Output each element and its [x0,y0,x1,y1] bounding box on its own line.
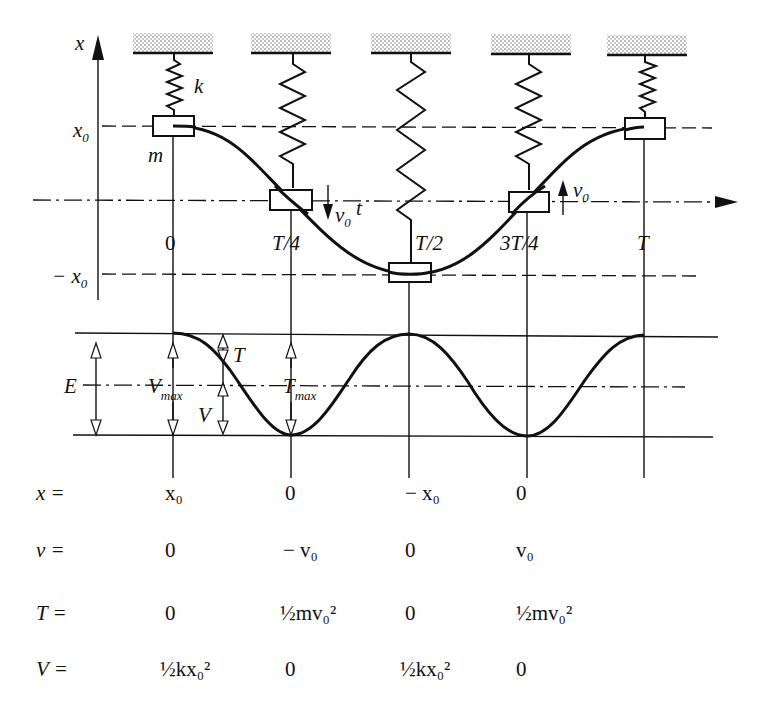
table-cell: 0 [165,538,176,562]
table-cell: x₀ [165,481,183,505]
table-cell: v₀ [516,538,534,562]
table-cell: ½mv₀² [516,601,572,625]
energy-graph [73,333,718,437]
state-table: x = x₀ 0 − x₀ 0 v = 0 − v₀ 0 v₀ T = 0 ½m… [35,481,572,681]
tmax-label: Tmax [283,374,317,403]
t-axis-label: t [356,196,363,220]
displacement-axis [92,35,104,300]
spring-constant-label: k [194,74,204,98]
kinetic-energy-label: T [233,343,246,367]
springs [167,53,656,263]
table-cell: − x₀ [405,481,440,505]
x-axis-label: x [74,31,85,55]
table-cell: ½kx₀² [160,657,210,681]
axis-arrow-icon [92,35,104,60]
table-row-label-x: x = [35,481,65,505]
table-cell: ½kx₀² [400,657,450,681]
curve-start-overlay [173,126,194,127]
tick-3t-quarter: 3T/4 [499,231,539,255]
tick-t-half: T/2 [415,231,444,255]
x0-label: x0 [72,118,89,145]
total-energy-label: E [63,374,77,398]
table-row-label-v: v = [36,538,65,562]
velocity-label-down: v0 [335,203,351,230]
table-cell: 0 [405,601,416,625]
velocity-arrow-up-icon [558,180,568,215]
table-cell: 0 [516,481,527,505]
ceiling-supports [133,33,687,55]
tick-t-full: T [637,231,650,255]
tick-0: 0 [165,231,176,255]
tick-t-quarter: T/4 [272,231,301,255]
vmax-label: Vmax [148,374,183,403]
table-cell: ½mv₀² [280,601,336,625]
mass-label: m [148,143,163,167]
table-row-label-t: T = [36,601,67,625]
table-cell: 0 [285,481,296,505]
potential-energy-label: V [198,403,213,427]
table-cell: 0 [516,657,527,681]
table-cell: 0 [405,538,416,562]
table-cell: 0 [165,601,176,625]
table-cell: − v₀ [283,538,318,562]
neg-x0-label: − x0 [52,264,88,291]
table-row-label-v-potential: V = [36,657,68,681]
velocity-label-up: v0 [573,178,589,205]
table-cell: 0 [285,657,296,681]
time-axis-arrow-icon [715,196,738,208]
spring-oscillator-diagram: x k m x0 − x0 t [0,0,775,724]
velocity-arrow-down-icon [323,185,333,220]
time-axis-line [33,200,715,202]
